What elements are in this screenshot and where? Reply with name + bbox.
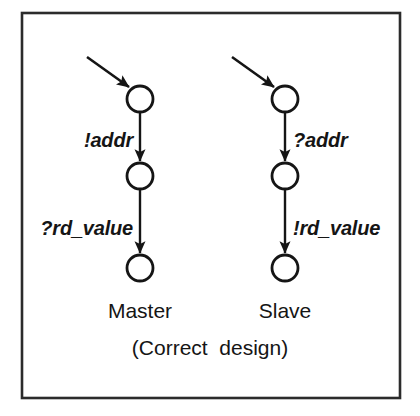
master-entry-arrow bbox=[87, 57, 129, 87]
master-column-label: Master bbox=[108, 300, 172, 321]
slave-column-label: Slave bbox=[259, 300, 312, 321]
slave-state-2 bbox=[272, 255, 298, 281]
column-slave bbox=[232, 57, 298, 281]
master-state-0 bbox=[127, 86, 153, 112]
slave-state-0 bbox=[272, 86, 298, 112]
slave-transition-0-label: ?addr bbox=[293, 130, 348, 150]
master-transition-0-label: !addr bbox=[84, 130, 133, 150]
master-transition-1-label: ?rd_value bbox=[40, 218, 133, 238]
figure-caption: (Correct design) bbox=[132, 337, 288, 358]
column-master bbox=[87, 57, 153, 281]
slave-transition-1-label: !rd_value bbox=[293, 218, 380, 238]
master-state-2 bbox=[127, 255, 153, 281]
slave-entry-arrow bbox=[232, 57, 274, 87]
slave-state-1 bbox=[272, 163, 298, 189]
diagram-canvas: !addr ?rd_value ?addr !rd_value Master S… bbox=[0, 0, 420, 416]
master-state-1 bbox=[127, 163, 153, 189]
